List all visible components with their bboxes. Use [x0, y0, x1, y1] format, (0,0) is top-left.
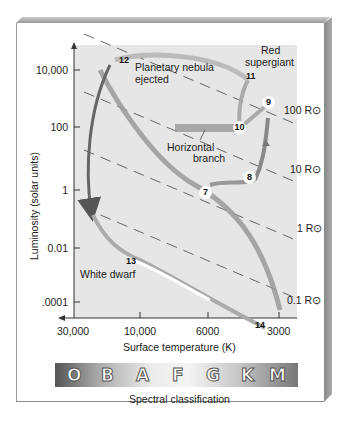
label-supergiant: supergiant [245, 56, 294, 68]
x-tick-3000: 3000 [267, 325, 290, 337]
y-tick-100: 100 [18, 121, 68, 133]
x-tick-6000: 6000 [196, 325, 219, 337]
label-planetary-nebula: Planetary nebula [135, 61, 214, 73]
spectral-B: B [101, 365, 114, 385]
spectral-G: G [206, 365, 220, 385]
stage-7: 7 [199, 186, 212, 199]
spectral-O: O [67, 365, 81, 385]
x-axis-label: Surface temperature (K) [123, 341, 236, 353]
radius-10: 10 R⊙ [290, 163, 321, 175]
x-tick-10000: 10,000 [124, 325, 156, 337]
label-ejected: ejected [135, 73, 169, 85]
y-tick-0.0001: .0001 [18, 296, 68, 308]
spectral-A: A [136, 365, 149, 385]
y-tick-10000: 10,000 [18, 64, 68, 76]
label-branch: branch [193, 152, 225, 164]
stage-8: 8 [243, 171, 256, 184]
stage-14: 14 [255, 320, 265, 330]
radius-100: 100 R⊙ [284, 104, 321, 116]
spectral-M: M [269, 365, 286, 385]
y-axis-label: Luminosity (solar units) [28, 152, 40, 260]
x-tick-30000: 30,000 [57, 325, 89, 337]
stage-13: 13 [126, 256, 136, 266]
radius-1: 1 R⊙ [297, 222, 322, 234]
y-tick-0.01: 0.01 [18, 242, 68, 254]
label-white-dwarf: White dwarf [80, 268, 135, 280]
spectral-K: K [241, 365, 254, 385]
spectral-F: F [172, 365, 184, 385]
label-branch-text: branch [193, 152, 225, 164]
radius-0.1: 0.1 R⊙ [287, 294, 321, 306]
stage-11: 11 [246, 71, 256, 81]
stage-9: 9 [262, 96, 275, 109]
y-tick-1: 1 [18, 184, 68, 196]
spectral-label: Spectral classification [129, 393, 230, 405]
stage-12: 12 [119, 55, 129, 65]
label-red: Red [261, 44, 280, 56]
spectral-class-bar: O B A F G K M [55, 363, 298, 387]
stage-10: 10 [233, 121, 246, 134]
